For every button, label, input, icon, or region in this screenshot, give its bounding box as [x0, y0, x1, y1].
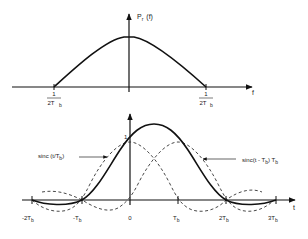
sinc-t-minus-tb-curve [42, 142, 274, 211]
top-plot: Pr(f) f 1 2T b 1 2T b [12, 13, 254, 108]
x-axis-label-f: f [252, 89, 254, 96]
raised-cosine-diagram: Pr(f) f 1 2T b 1 2T b 1 t [0, 0, 308, 239]
svg-text:-2Tb: -2Tb [22, 215, 34, 223]
svg-text:0: 0 [128, 215, 132, 221]
svg-text:3Tb: 3Tb [268, 215, 278, 223]
bottom-plot: 1 t -2Tb -Tb 0 Tb 2Tb 3Tb sinc (t/Tb) si… [22, 114, 295, 223]
x-axis-label-t: t [293, 204, 295, 211]
svg-text:2Tb: 2Tb [219, 215, 229, 223]
svg-text:-Tb: -Tb [73, 215, 82, 223]
annotation-sinc-right: sinc(t - Tb) Tb [203, 157, 278, 165]
svg-text:b: b [210, 102, 213, 108]
svg-text:2T: 2T [47, 100, 54, 106]
svg-text:1: 1 [204, 91, 208, 97]
svg-text:Tb: Tb [173, 215, 180, 223]
annotation-sinc-left: sinc (t/Tb) [38, 153, 107, 161]
svg-text:sinc (t/Tb): sinc (t/Tb) [38, 153, 64, 161]
spectrum-curve [54, 37, 206, 87]
y-axis-label: Pr(f) [137, 13, 153, 22]
tick-labels: -2Tb -Tb 0 Tb 2Tb 3Tb [22, 215, 278, 223]
svg-text:b: b [59, 102, 62, 108]
right-tick-label: 1 2T b [199, 91, 213, 108]
svg-text:1: 1 [52, 91, 56, 97]
left-tick-label: 1 2T b [47, 91, 62, 108]
svg-text:2T: 2T [199, 100, 206, 106]
svg-text:sinc(t - Tb) Tb: sinc(t - Tb) Tb [242, 157, 278, 165]
